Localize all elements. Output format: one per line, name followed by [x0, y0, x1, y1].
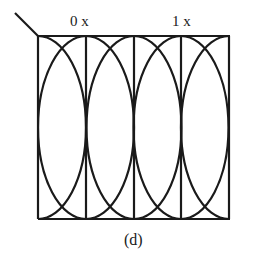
- caption: (d): [124, 231, 143, 249]
- label-one-x: 1 x: [172, 13, 191, 30]
- ellipse-5: [181, 36, 253, 219]
- diagram-canvas: [0, 0, 253, 258]
- label-zero-x: 0 x: [70, 13, 89, 30]
- ellipse-1: [0, 36, 86, 219]
- pointer-line: [15, 13, 38, 36]
